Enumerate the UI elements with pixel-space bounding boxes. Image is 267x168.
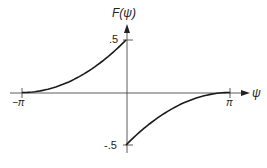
y-tick-label-top: .5 — [109, 34, 118, 45]
chart-canvas — [0, 0, 267, 168]
x-tick-label-right: π — [226, 98, 233, 108]
curve-positive-psi — [126, 93, 230, 146]
x-axis-label: ψ — [252, 87, 261, 99]
y-tick-label-bottom: -.5 — [104, 140, 117, 151]
curve-negative-psi — [22, 40, 126, 93]
y-axis-arrow-icon — [124, 24, 130, 33]
y-axis-label: F(ψ) — [112, 7, 136, 19]
x-tick-label-left: −π — [12, 98, 25, 108]
x-axis-arrow-icon — [241, 90, 250, 96]
